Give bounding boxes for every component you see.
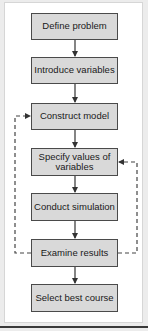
- step-examine-results: Examine results: [31, 239, 118, 267]
- step-define-problem: Define problem: [31, 13, 118, 40]
- feedback-loop-left: [15, 116, 31, 253]
- step-construct-model: Construct model: [31, 103, 118, 130]
- feedback-loop-right: [118, 162, 137, 253]
- step-conduct-simulation: Conduct simulation: [31, 193, 118, 221]
- step-specify-values: Specify values of variables: [31, 148, 118, 176]
- step-introduce-variables: Introduce variables: [31, 57, 118, 84]
- bottom-rule: [0, 326, 148, 328]
- step-select-best-course: Select best course: [31, 284, 118, 312]
